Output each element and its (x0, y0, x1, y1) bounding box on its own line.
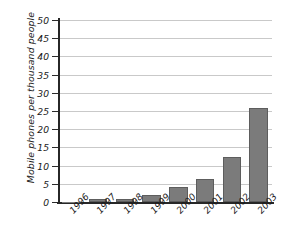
y-axis-tick-label: 0 (43, 197, 49, 208)
y-axis-tick-label: 50 (37, 15, 49, 26)
y-axis-tick-label: 45 (37, 33, 49, 44)
x-axis-tick-labels: 19961997199819992000200120022003 (58, 204, 272, 244)
y-axis-tick-label: 5 (43, 178, 49, 189)
y-axis-tick-label: 15 (37, 142, 49, 153)
y-axis-tick-label: 25 (37, 106, 49, 117)
y-axis-tick-label: 20 (37, 124, 49, 135)
bar-chart: Mobile phones per thousand people 051015… (0, 0, 284, 244)
bar (249, 108, 268, 202)
y-axis-tick-label: 35 (37, 69, 49, 80)
y-axis-tick-label: 30 (37, 87, 49, 98)
y-axis-tick-label: 10 (37, 160, 49, 171)
bars-group (58, 20, 272, 202)
y-axis-tick-label: 40 (37, 51, 49, 62)
y-axis-label: Mobile phones per thousand people (25, 5, 36, 191)
